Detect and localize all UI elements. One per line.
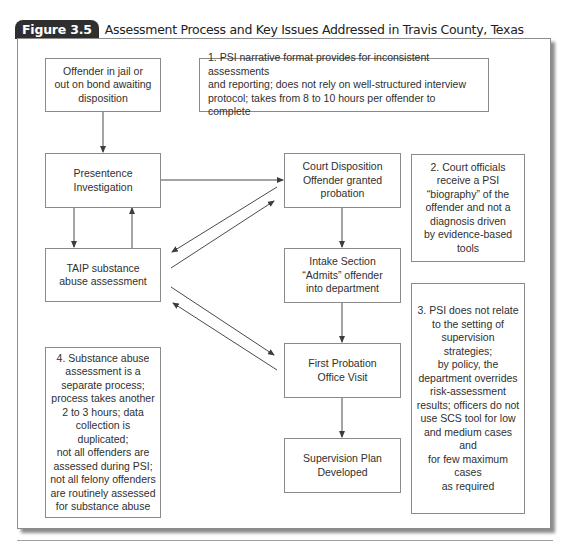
arrow-taip-to-court <box>171 201 274 268</box>
step-offender-status: Offender in jail or out on bond awaiting… <box>45 58 161 112</box>
step-taip-assessment: TAIP substance abuse assessment <box>45 248 161 302</box>
step-presentence-investigation: Presentence Investigation <box>45 153 161 208</box>
issue-note-4: 4. Substance abuse assessment is a separ… <box>45 347 161 518</box>
arrow-taip-to-first-visit <box>171 287 274 355</box>
issue-note-3: 3. PSI does not relate to the setting of… <box>411 283 525 514</box>
step-supervision-plan: Supervision Plan Developed <box>284 438 401 493</box>
step-court-disposition: Court Disposition Offender granted proba… <box>284 153 401 208</box>
issue-note-1: 1. PSI narrative format provides for inc… <box>199 58 489 112</box>
issue-note-2: 2. Court officials receive a PSI “biogra… <box>411 154 525 262</box>
arrow-court-to-taip <box>172 187 277 252</box>
step-first-probation-visit: First Probation Office Visit <box>284 343 401 398</box>
step-intake-section: Intake Section “Admits” offender into de… <box>284 248 401 303</box>
arrow-first-visit-to-taip <box>173 303 277 370</box>
